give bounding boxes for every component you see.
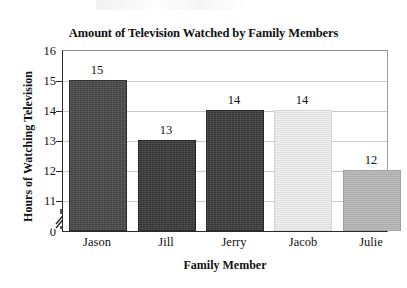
bar-jerry[interactable] — [206, 110, 264, 231]
x-axis-title: Family Member — [62, 258, 388, 273]
plot-area — [62, 50, 388, 232]
data-label-julie: 12 — [342, 154, 400, 167]
data-label-jill: 13 — [137, 124, 195, 137]
x-tick-label-jerry: Jerry — [199, 236, 269, 249]
bar-julie[interactable] — [343, 170, 401, 231]
x-tick-label-jason: Jason — [62, 236, 132, 249]
data-label-jerry: 14 — [205, 94, 263, 107]
y-tick-label-13: 13 — [34, 135, 56, 148]
y-tick-label-16: 16 — [34, 45, 56, 58]
y-tick-label-14: 14 — [34, 105, 56, 118]
y-axis-ticks: 16 15 14 13 12 11 0 — [26, 0, 56, 288]
data-label-jacob: 14 — [273, 94, 331, 107]
data-label-jason: 15 — [68, 64, 126, 77]
scan-artifact — [96, 0, 246, 10]
bar-jill[interactable] — [138, 140, 196, 231]
x-tick-label-jill: Jill — [131, 236, 201, 249]
bar-chart: Amount of Television Watched by Family M… — [0, 0, 407, 288]
chart-title: Amount of Television Watched by Family M… — [0, 26, 407, 41]
y-tick-label-15: 15 — [34, 75, 56, 88]
x-tick-label-jacob: Jacob — [268, 236, 338, 249]
y-tick-label-12: 12 — [34, 165, 56, 178]
x-tick-label-julie: Julie — [336, 236, 406, 249]
bar-jason[interactable] — [69, 80, 127, 231]
y-tick-label-11: 11 — [34, 195, 56, 208]
bar-jacob[interactable] — [274, 110, 332, 231]
